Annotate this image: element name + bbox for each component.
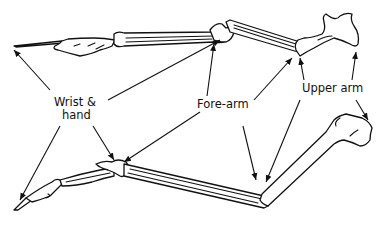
label-wrist-hand-line2: hand xyxy=(62,108,91,122)
arrow-upper-top-elbow xyxy=(300,58,304,80)
bottom-humerus xyxy=(260,114,372,206)
arrow-forearm-bottom xyxy=(124,112,200,162)
top-wrist-bone xyxy=(54,38,115,56)
top-upper-forearm xyxy=(226,20,301,52)
arrow-forearm-top-1 xyxy=(207,44,214,96)
arrow-forearm-top-2 xyxy=(254,58,292,100)
arrow-forearm-bottom-elbow xyxy=(243,126,256,180)
top-humerus xyxy=(295,13,358,56)
limb-diagram: Wrist & hand Fore-arm Upper arm xyxy=(0,0,383,226)
bottom-limb xyxy=(14,114,372,210)
label-upper-arm: Upper arm xyxy=(302,81,363,95)
bottom-forearm xyxy=(124,164,269,208)
arrow-upper-top-head xyxy=(352,52,356,80)
arrow-wrist-top-hand xyxy=(14,50,50,90)
label-wrist-hand-line1: Wrist & xyxy=(54,95,96,109)
bottom-palm xyxy=(26,179,62,202)
top-limb xyxy=(14,13,359,56)
arrow-wrist-bottom-wrist xyxy=(93,126,114,160)
label-forearm: Fore-arm xyxy=(197,97,249,111)
arrow-wrist-top-joint xyxy=(108,40,220,100)
